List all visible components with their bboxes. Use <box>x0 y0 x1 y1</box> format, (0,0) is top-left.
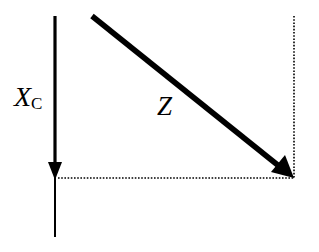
xc-arrowhead-icon <box>48 162 62 180</box>
phasor-diagram <box>0 0 319 252</box>
xc-label: XC <box>14 83 42 112</box>
z-vector-arrow <box>92 16 294 178</box>
z-label: Z <box>157 93 172 120</box>
xc-label-main: X <box>14 81 31 112</box>
xc-label-subscript: C <box>31 94 42 113</box>
z-arrowhead-icon <box>271 155 294 178</box>
xc-vector-arrow <box>48 16 62 180</box>
